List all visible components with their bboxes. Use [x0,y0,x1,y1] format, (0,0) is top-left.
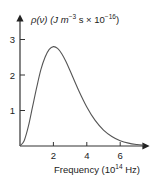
data-curve [20,47,144,146]
y-tick-label: 1 [10,105,15,116]
y-tick-label: 2 [10,70,15,81]
y-axis-label: ρ(ν) (J m−3 s × 10−16) [30,13,119,25]
x-tick-label: 4 [84,150,89,161]
y-tick-label: 3 [10,34,15,45]
x-axis-label: Frequency (1014 Hz) [54,163,140,175]
x-tick-label: 6 [118,150,123,161]
x-tick-label: 2 [51,150,56,161]
chart: 246123 ρ(ν) (J m−3 s × 10−16) Frequency … [0,0,160,187]
